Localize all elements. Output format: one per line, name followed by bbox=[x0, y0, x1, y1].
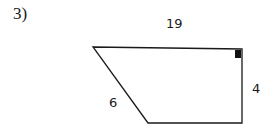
top-side-label: 19 bbox=[166, 17, 183, 30]
trapezoid-diagram bbox=[0, 0, 273, 130]
trapezoid-shape bbox=[93, 47, 242, 123]
right-angle-marker-icon bbox=[235, 50, 241, 58]
slant-side-label: 6 bbox=[109, 96, 117, 109]
right-side-label: 4 bbox=[252, 82, 260, 95]
